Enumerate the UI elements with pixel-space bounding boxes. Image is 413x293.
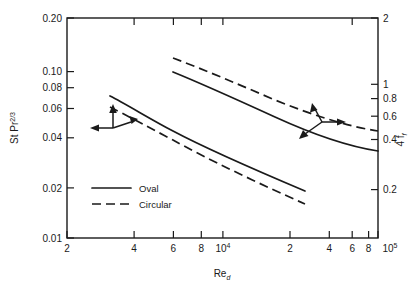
series-oval-heat-transfer (110, 96, 305, 191)
series-circular-friction (173, 58, 378, 131)
y-left-title-sup: 2/3 (9, 112, 16, 122)
svg-text:St Pr2/3: St Pr2/3 (9, 112, 21, 144)
y-left-tick-label: 0.10 (43, 66, 63, 77)
y-left-tick-label: 0.08 (43, 82, 63, 93)
x-tick-label: 10 (215, 243, 227, 254)
right-axis-pointer (299, 103, 346, 139)
y-right-tick-label: 1 (383, 79, 389, 90)
legend: Oval Circular (92, 183, 172, 210)
x-axis-labels: 2 4 6 8 104 2 4 6 8 105 (64, 242, 397, 254)
x-title-base: Re (214, 268, 227, 279)
x-axis-title: Red (214, 268, 232, 281)
x-tick-label: 10 (382, 243, 394, 254)
x-tick-label: 4 (131, 243, 137, 254)
x-tick-label-decade: 105 (382, 242, 397, 254)
y-right-tick-label: 0.6 (383, 111, 397, 122)
y-left-tick-label: 0.04 (43, 132, 63, 143)
y-axis-right-title: 4 ff (395, 132, 408, 146)
x-tick-exponent: 4 (227, 242, 231, 249)
legend-label-oval: Oval (139, 183, 159, 194)
y-axis-right-ticks (371, 18, 378, 190)
chart-figure: 0.20 0.10 0.08 0.06 0.04 0.02 0.01 St Pr… (0, 0, 413, 293)
chart-svg: 0.20 0.10 0.08 0.06 0.04 0.02 0.01 St Pr… (0, 0, 413, 293)
x-tick-label: 6 (171, 243, 177, 254)
legend-label-circular: Circular (139, 199, 172, 210)
y-right-title-base: 4 f (395, 135, 406, 146)
x-tick-label: 8 (199, 243, 205, 254)
x-tick-label: 2 (64, 243, 70, 254)
x-axis-top-ticks (134, 18, 352, 25)
y-right-title-sub: f (401, 132, 408, 135)
x-tick-label: 6 (349, 243, 355, 254)
x-tick-label: 8 (366, 243, 372, 254)
x-tick-label: 4 (327, 243, 333, 254)
pointer-head-up (109, 104, 117, 113)
pointer-head-left (90, 124, 99, 131)
svg-text:Red: Red (214, 268, 232, 281)
y-right-tick-label: 0.2 (383, 184, 397, 195)
y-right-tick-label: 0.8 (383, 93, 397, 104)
svg-text:4 ff: 4 ff (395, 132, 408, 146)
y-left-tick-label: 0.02 (43, 183, 63, 194)
y-left-title-base: St Pr (9, 121, 20, 144)
x-tick-label-decade: 104 (215, 242, 230, 254)
y-axis-left-ticks (67, 18, 74, 238)
y-left-tick-label: 0.06 (43, 103, 63, 114)
x-title-sub: d (226, 274, 231, 281)
y-axis-left-title: St Pr2/3 (9, 112, 21, 144)
y-left-tick-label: 0.20 (43, 13, 63, 24)
legend-item-oval: Oval (92, 183, 159, 194)
legend-item-circular: Circular (92, 199, 172, 210)
x-tick-exponent: 5 (394, 242, 398, 249)
x-tick-label: 2 (287, 243, 293, 254)
y-axis-left-labels: 0.20 0.10 0.08 0.06 0.04 0.02 0.01 (43, 13, 63, 244)
y-right-tick-label: 2 (383, 13, 389, 24)
y-axis-right-labels: 2 1 0.8 0.6 0.4 0.2 (383, 13, 397, 196)
x-axis-bottom-ticks (67, 231, 378, 238)
y-left-tick-label: 0.01 (43, 233, 63, 244)
series-oval-friction (173, 72, 378, 151)
